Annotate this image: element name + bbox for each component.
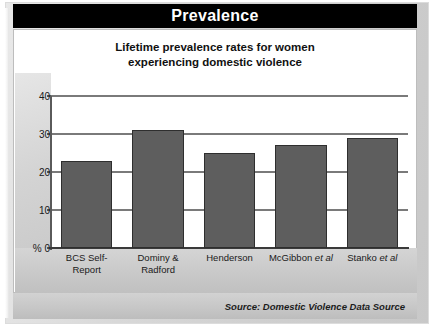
bar-series (51, 96, 408, 248)
chart-panel: Lifetime prevalence rates for women expe… (13, 29, 417, 293)
bar (347, 138, 398, 248)
bar (275, 145, 326, 248)
bar (61, 161, 112, 248)
frame-edge (5, 8, 9, 318)
chart-area: % 010203040 BCS Self-ReportDominy &Radfo… (14, 30, 418, 294)
y-tick-label-20: 20 (16, 167, 50, 178)
bar (132, 130, 183, 248)
y-tick-label-30: 30 (16, 129, 50, 140)
bar (204, 153, 255, 248)
source-text: Source: Domestic Violence Data Source (225, 301, 417, 312)
chart-screenshot: Prevalence Lifetime prevalence rates for… (0, 0, 431, 326)
y-tick-label-40: 40 (16, 91, 50, 102)
title-banner: Prevalence (13, 4, 417, 28)
source-band: Source: Domestic Violence Data Source (13, 293, 417, 319)
x-axis-label: Stanko et al (331, 252, 414, 264)
y-tick-label-10: 10 (16, 205, 50, 216)
page-title: Prevalence (171, 7, 259, 25)
x-axis-labels: BCS Self-ReportDominy &RadfordHendersonM… (51, 252, 408, 292)
